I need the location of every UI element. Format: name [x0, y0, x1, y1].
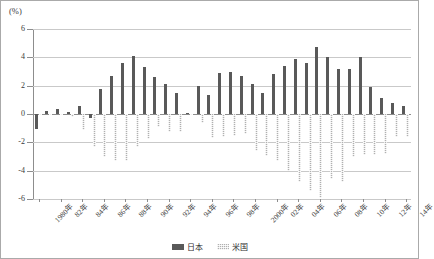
- gridline: [33, 199, 411, 200]
- y-axis-tick-label: 4: [3, 52, 25, 61]
- x-axis-tick-label: 88年: [136, 201, 154, 219]
- bar-group: [35, 29, 46, 199]
- bar-group: [186, 29, 197, 199]
- bar-japan: [391, 103, 394, 114]
- bar-japan: [240, 76, 243, 114]
- bar-group: [348, 29, 359, 199]
- x-axis-tick-label: 92年: [179, 201, 197, 219]
- bar-japan: [218, 73, 221, 114]
- x-axis-tick-label: 94年: [200, 201, 218, 219]
- bar-japan: [380, 98, 383, 114]
- bar-japan: [197, 86, 200, 114]
- x-axis-tick: [341, 199, 342, 202]
- bar-japan: [45, 111, 48, 114]
- plot-area: [33, 29, 411, 199]
- x-axis-tick-label: 2000年: [267, 201, 290, 224]
- x-axis-tick-label: 06年: [330, 201, 348, 219]
- bar-usa: [287, 114, 290, 171]
- bar-japan: [402, 106, 405, 115]
- bar-group: [337, 29, 348, 199]
- y-axis-tick: [27, 171, 33, 172]
- bar-usa: [190, 114, 193, 115]
- x-axis-tick: [147, 199, 148, 202]
- bar-usa: [93, 114, 96, 147]
- bar-group: [99, 29, 110, 199]
- bar-japan: [121, 63, 124, 114]
- bar-group: [175, 29, 186, 199]
- x-axis-tick: [190, 199, 191, 202]
- y-axis-unit-label: (%): [9, 6, 22, 16]
- bar-japan: [359, 57, 362, 114]
- bar-usa: [255, 114, 258, 151]
- y-axis-tick: [27, 199, 33, 200]
- x-axis-tick: [212, 199, 213, 202]
- bar-usa: [233, 114, 236, 136]
- legend-item-japan: 日本: [172, 241, 203, 252]
- x-axis-tick-label: 14年: [416, 201, 434, 219]
- bar-group: [164, 29, 175, 199]
- bar-group: [380, 29, 391, 199]
- x-axis-tick: [320, 199, 321, 202]
- bar-group: [132, 29, 143, 199]
- legend-label-japan: 日本: [187, 241, 203, 252]
- bar-group: [218, 29, 229, 199]
- y-axis-tick: [27, 114, 33, 115]
- bar-usa: [125, 114, 128, 161]
- y-axis-tick-label: 0: [3, 109, 25, 118]
- y-axis-tick-label: -2: [3, 137, 25, 146]
- x-axis-tick: [363, 199, 364, 202]
- bar-japan: [99, 89, 102, 114]
- bar-usa: [147, 114, 150, 139]
- bar-japan: [369, 87, 372, 114]
- bar-usa: [406, 114, 409, 137]
- x-axis-tick-label: 82年: [71, 201, 89, 219]
- bar-group: [326, 29, 337, 199]
- x-axis-tick: [169, 199, 170, 202]
- bar-group: [391, 29, 402, 199]
- bar-usa: [82, 114, 85, 130]
- chart-legend: 日本 米国: [1, 241, 418, 252]
- bar-group: [89, 29, 100, 199]
- bar-japan: [305, 63, 308, 114]
- bar-japan: [207, 95, 210, 114]
- bar-japan: [348, 69, 351, 114]
- bar-usa: [309, 114, 312, 191]
- bar-japan: [283, 66, 286, 114]
- bar-usa: [157, 114, 160, 127]
- bar-usa: [168, 114, 171, 132]
- bar-usa: [201, 114, 204, 123]
- bar-group: [207, 29, 218, 199]
- x-axis-tick-label: 04年: [308, 201, 326, 219]
- bar-usa: [384, 114, 387, 154]
- bar-japan: [67, 112, 70, 114]
- x-axis-tick: [82, 199, 83, 202]
- x-axis-tick: [385, 199, 386, 202]
- x-axis-tick: [125, 199, 126, 202]
- bar-japan: [56, 109, 59, 114]
- x-axis-tick-label: 96年: [222, 201, 240, 219]
- bar-usa: [265, 114, 268, 156]
- y-axis-tick-label: 6: [3, 24, 25, 33]
- x-axis-tick: [277, 199, 278, 202]
- bar-usa: [352, 114, 355, 157]
- bar-usa: [39, 114, 42, 115]
- bar-usa: [71, 114, 74, 117]
- bar-group: [153, 29, 164, 199]
- y-axis-tick-label: 2: [3, 81, 25, 90]
- bar-japan: [164, 84, 167, 114]
- bar-group: [143, 29, 154, 199]
- y-axis-tick: [27, 86, 33, 87]
- y-axis-tick: [27, 57, 33, 58]
- bar-japan: [294, 59, 297, 114]
- bar-usa: [363, 114, 366, 155]
- bar-japan: [186, 113, 189, 114]
- bar-group: [305, 29, 316, 199]
- bar-group: [283, 29, 294, 199]
- bar-japan: [229, 72, 232, 115]
- bar-group: [56, 29, 67, 199]
- x-axis-tick: [61, 199, 62, 202]
- x-axis-tick-label: 10年: [373, 201, 391, 219]
- bar-usa: [136, 114, 139, 147]
- bar-japan: [261, 93, 264, 114]
- bar-group: [251, 29, 262, 199]
